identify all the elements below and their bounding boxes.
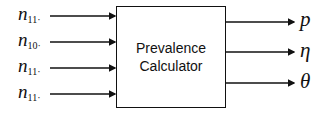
output-label-p: p [300,9,311,30]
output-label-eta: η [300,40,310,61]
input-subscript: 11· [28,66,41,77]
prevalence-calculator-block: Prevalence Calculator [116,6,226,108]
input-subscript: 11· [28,14,41,25]
input-symbol: n [18,29,28,50]
input-symbol: n [18,3,28,24]
input-symbol: n [18,55,28,76]
input-label-4: n11· [18,82,40,103]
block-label-line1: Prevalence [136,39,206,57]
input-subscript: 11· [28,92,41,103]
input-label-2: n10· [18,30,41,51]
input-label-3: n11· [18,56,40,77]
block-label-line2: Calculator [139,57,202,75]
input-label-1: n11· [18,4,40,25]
input-symbol: n [18,81,28,102]
output-arrows [226,22,294,83]
output-label-theta: θ [300,71,310,92]
input-subscript: 10· [28,40,41,51]
input-arrows [50,16,115,94]
diagram-canvas: n11· n10· n11· n11· Prevalence Calculato… [0,0,322,117]
